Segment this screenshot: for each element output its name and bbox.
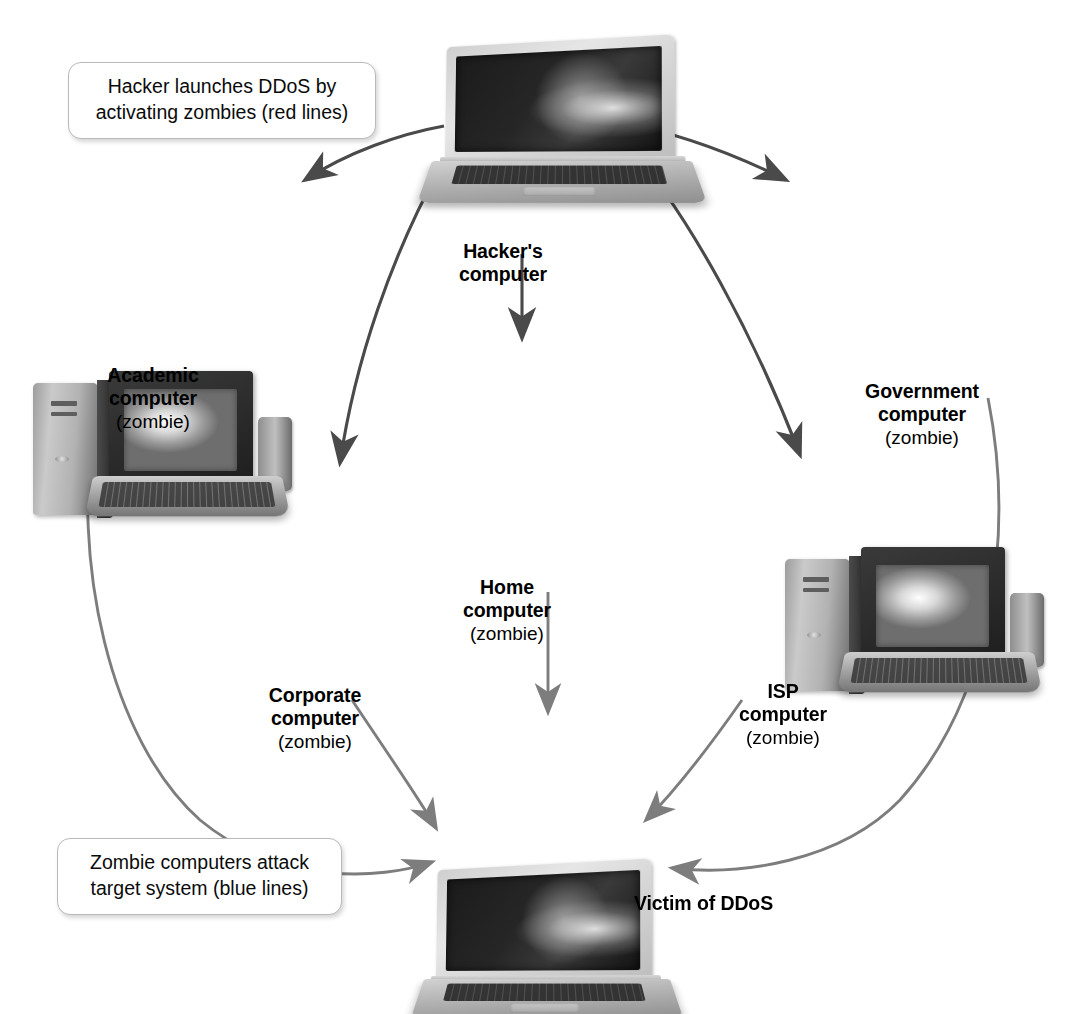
desktop-monitor	[861, 547, 1005, 668]
edge-hacker-to-corporate	[340, 166, 441, 463]
label-line-2: computer	[54, 387, 252, 410]
device-hacker-laptop	[432, 46, 692, 231]
label-line-1: Victim of DDoS	[634, 892, 864, 915]
label-line-3: (zombie)	[818, 427, 1026, 450]
label-line-3: (zombie)	[412, 623, 602, 646]
label-academic-computer: Academic computer (zombie)	[54, 364, 252, 434]
callout-zombie-computers-attack: Zombie computers attack target system (b…	[57, 838, 342, 915]
laptop-screen	[446, 870, 641, 972]
label-line-2: computer	[222, 707, 408, 730]
device-home-laptop	[424, 869, 670, 1014]
label-line-1: Academic	[54, 364, 252, 387]
laptop-trackpad	[509, 1004, 579, 1013]
label-line-3: (zombie)	[690, 727, 876, 750]
laptop-base	[411, 979, 684, 1014]
label-isp-computer: ISP computer (zombie)	[690, 680, 876, 750]
laptop-trackpad	[522, 186, 596, 196]
label-line-1: Corporate	[222, 684, 408, 707]
laptop-keyboard	[451, 165, 667, 183]
label-victim-of-ddos: Victim of DDoS	[634, 892, 864, 915]
laptop-lid	[436, 858, 652, 981]
label-line-3: (zombie)	[54, 411, 252, 434]
label-government-computer: Government computer (zombie)	[818, 380, 1026, 450]
laptop-base	[417, 161, 707, 202]
label-line-2: computer	[412, 599, 602, 622]
label-line-3: (zombie)	[222, 731, 408, 754]
label-corporate-computer: Corporate computer (zombie)	[222, 684, 408, 754]
desktop-keyboard	[85, 476, 290, 516]
label-line-1: ISP	[690, 680, 876, 703]
label-line-2: computer	[818, 403, 1026, 426]
laptop-screen	[455, 46, 662, 152]
laptop-keyboard	[443, 984, 646, 1002]
laptop-lid	[445, 34, 675, 162]
label-hacker-computer: Hacker's computer	[410, 240, 596, 287]
label-line-1: Government	[818, 380, 1026, 403]
desktop-screen	[876, 565, 989, 647]
ddos-diagram: Hacker's computer Academic computer (zom…	[0, 0, 1067, 1014]
label-line-2: computer	[690, 703, 876, 726]
label-line-2: computer	[410, 263, 596, 286]
label-home-computer: Home computer (zombie)	[412, 576, 602, 646]
label-line-1: Home	[412, 576, 602, 599]
label-line-1: Hacker's	[410, 240, 596, 263]
callout-hacker-launches-ddos: Hacker launches DDoS by activating zombi…	[68, 62, 376, 139]
